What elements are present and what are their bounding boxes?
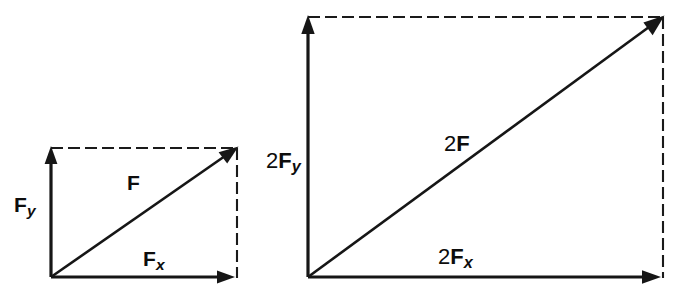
f-resultant-arrowhead	[219, 147, 239, 164]
label-twof-y-component: 2Fy	[266, 150, 301, 172]
f-x-component-arrowhead	[217, 271, 235, 284]
label-twof-x-component: 2Fx	[438, 246, 473, 268]
twof-resultant-shaft	[308, 27, 649, 277]
panel-f-graphics	[45, 146, 239, 283]
label-f-resultant: F	[127, 172, 140, 193]
label-twof-resultant: 2F	[444, 133, 470, 155]
twof-x-component-arrowhead	[642, 270, 661, 283]
vector-diagram-svg	[0, 0, 690, 300]
panel-2f-graphics	[301, 15, 664, 284]
label-f-x-component: Fx	[143, 248, 164, 269]
twof-resultant-arrowhead	[643, 16, 664, 36]
figure-canvas: Fy F Fx 2Fy 2F 2Fx	[0, 0, 690, 300]
label-f-y-component: Fy	[14, 194, 35, 215]
